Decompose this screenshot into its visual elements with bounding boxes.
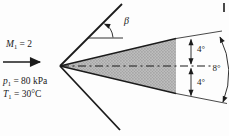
bottom-extension-line xyxy=(176,94,227,104)
mach-label: M1 = 2 xyxy=(5,39,32,50)
total-angle-label: 8° xyxy=(213,63,222,73)
beta-label: β xyxy=(123,15,129,26)
wedge-flow-figure: M1 = 2 p1 = 80 kPa T1 = 30°C β 4° 4° 8° xyxy=(0,0,229,136)
lower-half-angle-label: 4° xyxy=(197,77,206,87)
beta-arc-arrow-icon xyxy=(105,24,114,38)
top-extension-line xyxy=(176,31,222,39)
figure-canvas: M1 = 2 p1 = 80 kPa T1 = 30°C β 4° 4° 8° xyxy=(0,0,229,136)
total-angle-arc-arrow-icon xyxy=(220,37,229,102)
pressure-label: p1 = 80 kPa xyxy=(2,76,48,87)
upper-half-angle-label: 4° xyxy=(197,44,206,54)
temperature-label: T1 = 30°C xyxy=(3,89,41,100)
